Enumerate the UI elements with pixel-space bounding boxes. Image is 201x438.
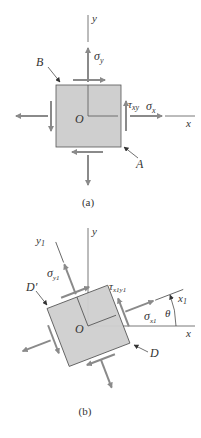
pointer-d-icon xyxy=(134,345,148,352)
tau-x1y1-label: τx1y1 xyxy=(109,280,126,294)
x-axis-label: x xyxy=(185,117,191,129)
sigma-y1-label: σy1 xyxy=(47,266,60,282)
caption-b: (b) xyxy=(79,405,92,418)
theta-arc xyxy=(170,295,176,326)
point-dprime-label: D′ xyxy=(25,280,38,294)
x1-axis-label: x1 xyxy=(177,292,187,306)
y-axis-label-b: y xyxy=(91,225,97,237)
sigma-y1-down-arrow-icon xyxy=(101,360,112,388)
point-b-label: B xyxy=(36,55,44,69)
sigma-x1-label: σx1 xyxy=(144,309,157,325)
point-d-label: D xyxy=(149,346,159,360)
panel-b: y x y1 x1 O θ D′ D σy1 σx1 τx1y1 (b) xyxy=(0,205,201,418)
theta-label: θ xyxy=(165,307,171,319)
pointer-b-icon xyxy=(48,67,60,82)
point-a-label: A xyxy=(135,157,144,171)
sigma-y-label: σy xyxy=(94,49,104,65)
sigma-x-label: σx xyxy=(146,99,156,115)
caption-a: (a) xyxy=(82,196,95,209)
origin-label: O xyxy=(75,112,84,126)
y1-axis xyxy=(56,242,64,263)
pointer-dprime-icon xyxy=(36,291,47,305)
tau-xy-label: τxy xyxy=(128,98,139,112)
panel-a: y x O B A σy σx τxy (a) xyxy=(16,12,195,209)
sigma-y1-arrow-icon xyxy=(64,264,75,294)
x-axis-label-b: x xyxy=(185,327,191,339)
sigma-x1-left-arrow-icon xyxy=(23,340,51,351)
stress-element-figure: y x O B A σy σx τxy (a) xyxy=(0,0,201,438)
y-axis-label: y xyxy=(91,12,97,24)
origin-label-b: O xyxy=(75,322,84,336)
y1-axis-label: y1 xyxy=(35,234,45,248)
